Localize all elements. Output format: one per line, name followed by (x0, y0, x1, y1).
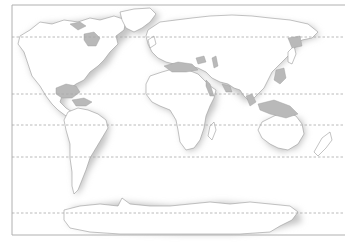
east-china-sea (274, 68, 286, 84)
world-map-svg (0, 0, 351, 245)
africa (146, 68, 216, 150)
australia (258, 112, 304, 150)
north-america (18, 16, 126, 116)
caribbean (72, 98, 92, 106)
land (18, 8, 332, 234)
southeast-asia-seas (258, 100, 298, 118)
world-map (0, 0, 351, 245)
south-america (64, 108, 108, 194)
new-zealand (314, 132, 332, 156)
antarctica (64, 198, 298, 234)
